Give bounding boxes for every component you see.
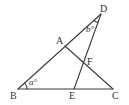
label-point-f: F	[87, 56, 93, 67]
angle-arc-d	[94, 20, 98, 22]
angle-arc-b	[25, 83, 27, 89]
label-point-a: A	[56, 35, 64, 46]
angle-label-a: a°	[29, 77, 38, 87]
geometry-figure: A B C D E F a° b°	[0, 0, 129, 105]
label-point-b: B	[10, 90, 17, 101]
label-point-c: C	[112, 90, 119, 101]
angle-label-b: b°	[86, 24, 95, 34]
label-point-e: E	[69, 90, 75, 101]
segment-ac	[65, 46, 113, 89]
label-point-d: D	[100, 3, 107, 14]
